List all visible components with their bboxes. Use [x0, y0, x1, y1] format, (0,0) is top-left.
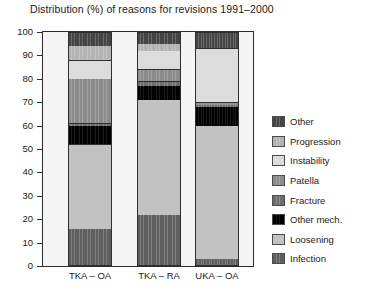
y-axis-tick-label: 30 — [22, 190, 33, 201]
y-axis-tick-label: 100 — [17, 26, 33, 37]
legend-item[interactable]: Fracture — [272, 190, 364, 210]
y-axis-tick-label: 0 — [28, 260, 33, 271]
x-axis-labels: TKA – OATKA – RAUKA – OA — [43, 270, 253, 286]
bar-segment — [137, 85, 181, 100]
chart-title: Distribution (%) of reasons for revision… — [30, 3, 274, 15]
y-axis-tick-label: 20 — [22, 213, 33, 224]
bar-segment — [68, 31, 112, 46]
bar-segment — [68, 228, 112, 266]
bar-segment — [195, 258, 239, 266]
legend-item-label: Other — [290, 116, 314, 127]
legend-item-label: Fracture — [290, 195, 325, 206]
bar-segment — [137, 31, 181, 43]
y-axis-tick-label: 40 — [22, 166, 33, 177]
legend-item[interactable]: Instability — [272, 151, 364, 171]
legend-item-label: Progression — [290, 136, 341, 147]
legend-item[interactable]: Progression — [272, 132, 364, 152]
y-axis-tick-label: 50 — [22, 143, 33, 154]
chart-container: Distribution (%) of reasons for revision… — [0, 0, 367, 296]
bar-segment — [195, 31, 239, 48]
legend-item-label: Instability — [290, 155, 330, 166]
legend-swatch — [272, 253, 285, 264]
legend-swatch — [272, 234, 285, 245]
legend-swatch — [272, 136, 285, 147]
y-axis-tick-label: 90 — [22, 49, 33, 60]
legend-swatch — [272, 175, 285, 186]
x-axis-label: UKA – OA — [172, 270, 262, 281]
legend-item[interactable]: Patella — [272, 171, 364, 191]
bar-segment — [137, 50, 181, 69]
bar-segment — [68, 144, 112, 229]
bar-segment — [137, 81, 181, 86]
bar-segment — [68, 78, 112, 123]
legend-item[interactable]: Infection — [272, 249, 364, 269]
bar-segment — [137, 69, 181, 81]
legend-item-label: Infection — [290, 253, 326, 264]
bar-column — [137, 32, 181, 266]
legend-item-label: Patella — [290, 175, 319, 186]
y-axis-tick-label: 10 — [22, 237, 33, 248]
legend-swatch — [272, 195, 285, 206]
legend-swatch — [272, 116, 285, 127]
legend-item[interactable]: Other — [272, 112, 364, 132]
legend-item[interactable]: Loosening — [272, 230, 364, 250]
bar-segment — [195, 125, 239, 259]
bar-column — [195, 32, 239, 266]
y-axis-tick-label: 60 — [22, 120, 33, 131]
legend-swatch — [272, 214, 285, 225]
bar-segment — [137, 43, 181, 51]
legend: OtherProgressionInstabilityPatellaFractu… — [272, 112, 364, 269]
bar-segment — [195, 48, 239, 102]
bar-segment — [137, 99, 181, 214]
bar-segment — [137, 214, 181, 266]
bar-segment — [68, 45, 112, 60]
legend-swatch — [272, 155, 285, 166]
bar-segment — [68, 60, 112, 79]
y-axis-tick-label: 70 — [22, 96, 33, 107]
y-axis: 0102030405060708090100 — [0, 31, 42, 267]
bar-segment — [195, 106, 239, 125]
legend-item[interactable]: Other mech. — [272, 210, 364, 230]
bar-segment — [68, 125, 112, 144]
y-axis-tick-label: 80 — [22, 73, 33, 84]
legend-item-label: Other mech. — [290, 214, 342, 225]
legend-item-label: Loosening — [290, 234, 334, 245]
bars-group — [43, 32, 253, 266]
bar-column — [68, 32, 112, 266]
